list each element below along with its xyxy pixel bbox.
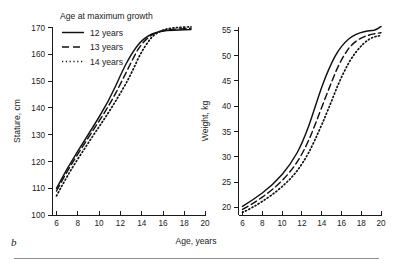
weight-y-axis-title: Weight, kg [200,101,210,142]
stature-x-tick-label: 18 [180,219,190,228]
weight-y-tick-label: 45 [222,77,232,86]
weight-y-tick-label: 55 [222,26,232,35]
stature-x-tick-label: 12 [116,219,126,228]
stature-x-tick-label: 10 [95,219,105,228]
legend-label: 13 years [90,42,123,52]
stature-x-tick-label: 6 [54,219,59,228]
stature-y-tick-labels: 170 160 150 140 130 120 110 100 [31,24,45,221]
weight-x-tick-label: 8 [260,219,265,228]
panel-label: b [11,236,17,248]
legend-item-13-years: 13 years [62,42,123,52]
stature-series-group [57,27,192,196]
stature-curve-12-years [57,30,192,189]
growth-curves-figure: 170 160 150 140 130 120 110 100 6 [0,0,393,264]
figure-canvas: 170 160 150 140 130 120 110 100 6 [0,0,393,264]
stature-curve-14-years [57,27,192,196]
stature-y-tick-label: 170 [31,24,45,33]
weight-y-tick-label: 35 [222,128,232,137]
legend-title: Age at maximum growth [60,11,153,21]
weight-y-tick-label: 30 [222,153,232,162]
stature-y-tick-label: 100 [31,211,45,220]
weight-x-tick-label: 12 [297,219,307,228]
stature-y-tick-label: 110 [32,184,45,193]
weight-x-tick-label: 10 [278,219,288,228]
weight-x-tick-label: 16 [337,219,347,228]
weight-x-tick-label: 6 [240,219,245,228]
weight-curve-12-years [243,27,382,207]
stature-x-ticks [57,211,206,216]
legend: Age at maximum growth 12 years 13 years … [60,11,153,67]
weight-x-tick-label: 14 [317,219,327,228]
weight-y-tick-label: 40 [222,102,232,111]
weight-x-tick-label: 20 [376,219,386,228]
weight-y-tick-label: 20 [222,203,232,212]
weight-y-tick-label: 25 [222,178,232,187]
stature-x-tick-labels: 6 8 10 12 14 16 18 20 [54,219,210,228]
stature-y-tick-label: 130 [31,131,45,140]
stature-y-ticks [48,28,53,216]
stature-chart: 170 160 150 140 130 120 110 100 6 [12,24,210,229]
weight-chart: 55 50 45 40 35 30 25 20 6 [200,26,386,228]
weight-x-ticks [243,211,382,216]
weight-x-tick-label: 18 [357,219,367,228]
weight-y-tick-labels: 55 50 45 40 35 30 25 20 [222,26,232,212]
legend-label: 12 years [90,28,123,38]
shared-x-axis-title: Age, years [175,236,216,246]
stature-y-tick-label: 140 [31,104,45,113]
weight-series-group [243,27,382,213]
weight-curve-13-years [243,33,382,210]
stature-y-axis-title: Stature, cm [12,99,22,143]
stature-y-tick-label: 160 [31,50,45,59]
stature-x-tick-label: 8 [76,219,81,228]
stature-curve-13-years [57,28,192,191]
weight-curve-14-years [243,36,382,213]
legend-label: 14 years [90,57,123,67]
stature-y-tick-label: 120 [31,158,45,167]
weight-y-tick-label: 50 [222,52,232,61]
stature-x-tick-label: 16 [158,219,168,228]
legend-item-12-years: 12 years [62,28,123,38]
stature-x-tick-label: 20 [200,219,210,228]
weight-x-tick-labels: 6 8 10 12 14 16 18 20 [240,219,386,228]
stature-x-tick-label: 14 [137,219,147,228]
weight-y-ticks [234,30,239,207]
legend-item-14-years: 14 years [62,57,123,67]
stature-y-tick-label: 150 [31,77,45,86]
